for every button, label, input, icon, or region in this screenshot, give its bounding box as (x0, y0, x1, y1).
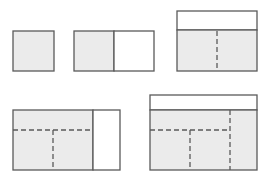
panel-4 (13, 110, 120, 170)
panel-3 (177, 11, 257, 71)
panel-5 (150, 95, 257, 170)
panel-1 (13, 31, 54, 71)
diagram-canvas (0, 0, 269, 178)
panel-2 (74, 31, 154, 71)
panel-3-empty-strip (177, 11, 257, 30)
panel-2-gray-square (74, 31, 114, 71)
panel-5-empty-strip (150, 95, 257, 110)
panel-5-gray-region (150, 110, 257, 170)
panel-2-empty-square (114, 31, 154, 71)
panel-1-gray-square (13, 31, 54, 71)
panel-4-empty-strip (93, 110, 120, 170)
